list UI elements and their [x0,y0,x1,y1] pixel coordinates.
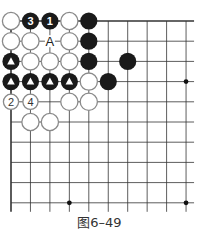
move-number-label: 2 [8,96,14,108]
white-stone-disc [61,12,78,29]
white-stone [22,53,39,70]
white-stone [41,53,58,70]
move-number-label: 4 [27,96,33,108]
white-stone-disc [80,73,97,90]
white-stone [41,113,58,130]
white-stone [61,93,78,110]
black-stone [2,53,19,70]
white-stone-disc [22,53,39,70]
white-stone [61,33,78,50]
star-point [184,200,189,205]
black-stone: 1 [41,12,58,29]
white-stone: 4 [23,94,38,109]
black-stone-disc [100,73,117,90]
black-stone [100,73,117,90]
black-stone-disc [80,33,97,50]
white-stone-disc [80,93,97,110]
white-stone-disc [22,113,39,130]
white-stone [80,93,97,110]
white-stone-disc [2,12,19,29]
figure-caption: 图6–49 [0,212,199,231]
point-labels: A [45,34,55,49]
white-stone-disc [2,33,19,50]
star-point [184,79,189,84]
black-stone-disc [119,53,136,70]
black-stone [80,53,97,70]
white-stone-disc [41,113,58,130]
point-label-a: A [46,34,55,49]
black-stone [80,12,97,29]
white-stone [2,12,19,29]
black-stone [22,73,39,90]
white-stone [22,113,39,130]
black-stone [2,73,19,90]
white-stone [61,12,78,29]
white-stone-disc [41,53,58,70]
move-number-label: 1 [47,15,53,27]
white-stone [2,33,19,50]
star-point [67,200,72,205]
white-stone-disc [61,33,78,50]
go-board-diagram: 3124 A [0,0,199,215]
white-stone [22,33,39,50]
black-stone-disc [80,12,97,29]
black-stone: 3 [22,12,39,29]
black-stone [41,73,58,90]
board-grid [11,21,194,212]
white-stone-disc [22,33,39,50]
move-number-label: 3 [27,15,33,27]
black-stone [119,53,136,70]
white-stone [80,73,97,90]
black-stone [61,73,78,90]
white-stone-disc [61,93,78,110]
black-stone [80,33,97,50]
white-stone-disc [61,53,78,70]
white-stone: 2 [3,94,18,109]
black-stone-disc [80,53,97,70]
white-stone [61,53,78,70]
